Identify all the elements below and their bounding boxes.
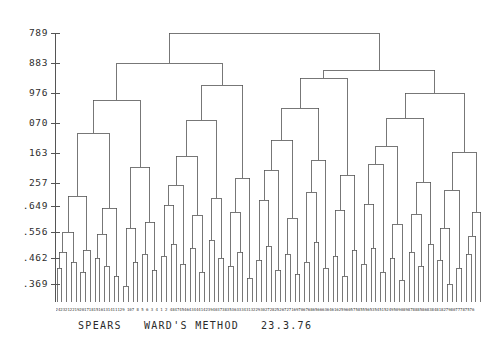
- y-axis-tick-label: .556: [4, 226, 48, 237]
- y-axis-tick-label: 257: [4, 177, 48, 188]
- y-axis-tick-label: .462: [4, 252, 48, 263]
- y-axis: [51, 33, 60, 302]
- y-axis-tick-label: 789: [4, 27, 48, 38]
- y-axis-tick-label: .369: [4, 278, 48, 289]
- dendrogram-figure: 789883976070163257.649.556.462.369 24232…: [0, 0, 490, 341]
- dendrogram-plot: [0, 0, 490, 341]
- y-axis-tick-label: .649: [4, 200, 48, 211]
- dendrogram-tree: [57, 33, 481, 302]
- y-axis-tick-label: 070: [4, 117, 48, 128]
- y-axis-tick-label: 883: [4, 57, 48, 68]
- figure-caption: SPEARS WARD'S METHOD 23.3.76: [78, 320, 312, 331]
- y-axis-tick-label: 163: [4, 147, 48, 158]
- y-axis-tick-label: 976: [4, 87, 48, 98]
